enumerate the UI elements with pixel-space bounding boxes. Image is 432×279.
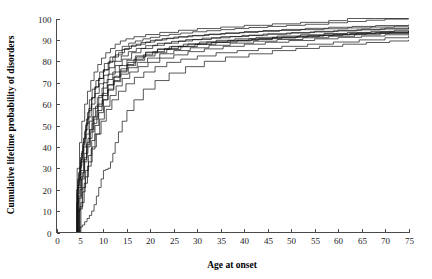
x-tick-label: 65 [358, 236, 368, 246]
x-tick-label: 0 [55, 236, 60, 246]
x-tick-label: 30 [193, 236, 203, 246]
x-axis-title: Age at onset [207, 260, 257, 270]
x-tick-label: 50 [287, 236, 297, 246]
x-tick-label: 45 [264, 236, 274, 246]
y-tick-label: 50 [43, 122, 53, 132]
x-tick-label: 5 [78, 236, 83, 246]
cumulative-onset-chart: 0510152025303540455055606570750102030405… [0, 0, 432, 279]
y-tick-label: 80 [43, 57, 53, 67]
y-tick-label: 100 [38, 15, 52, 25]
y-tick-label: 70 [43, 79, 53, 89]
x-tick-label: 40 [240, 236, 250, 246]
x-tick-label: 60 [334, 236, 344, 246]
x-tick-label: 55 [311, 236, 321, 246]
y-tick-label: 20 [43, 186, 53, 196]
x-tick-label: 25 [170, 236, 180, 246]
x-tick-label: 20 [146, 236, 156, 246]
x-tick-label: 15 [123, 236, 133, 246]
figure-container: 0510152025303540455055606570750102030405… [0, 0, 432, 279]
y-tick-label: 40 [43, 143, 53, 153]
y-tick-label: 60 [43, 100, 53, 110]
x-tick-label: 70 [381, 236, 391, 246]
x-tick-label: 75 [405, 236, 415, 246]
y-tick-label: 30 [43, 164, 53, 174]
y-tick-label: 90 [43, 36, 53, 46]
y-tick-label: 0 [47, 229, 52, 239]
y-axis-title: Cumulative lifetime probability of disor… [6, 35, 16, 214]
x-tick-label: 35 [217, 236, 227, 246]
y-tick-label: 10 [43, 207, 53, 217]
x-tick-label: 10 [99, 236, 109, 246]
